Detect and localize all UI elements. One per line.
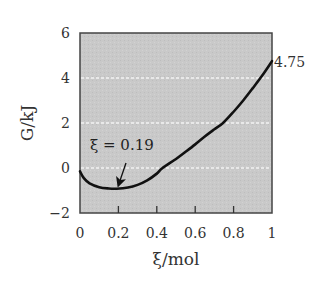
svg-text:0.4: 0.4 [146, 225, 168, 241]
svg-text:0.2: 0.2 [107, 225, 129, 241]
end-value-label: 4.75 [274, 54, 305, 70]
svg-text:1: 1 [268, 225, 277, 241]
svg-text:0: 0 [76, 225, 85, 241]
y-axis-label: G/kJ [17, 105, 37, 142]
svg-text:4: 4 [61, 70, 70, 86]
svg-text:0.6: 0.6 [184, 225, 206, 241]
svg-text:0.8: 0.8 [222, 225, 244, 241]
svg-text:−2: −2 [49, 205, 70, 221]
svg-text:0: 0 [61, 160, 70, 176]
min-annotation: ξ = 0.19 [90, 136, 154, 154]
svg-text:6: 6 [61, 25, 70, 41]
x-axis-label: ξ/mol [153, 249, 200, 269]
chart-svg: ξ = 0.19 4.75 6 4 2 0 −2 0 0.2 0.4 0.6 0… [0, 0, 325, 292]
y-tick-labels: 6 4 2 0 −2 [49, 25, 70, 221]
x-tick-labels: 0 0.2 0.4 0.6 0.8 1 [76, 225, 277, 241]
svg-text:2: 2 [61, 115, 70, 131]
